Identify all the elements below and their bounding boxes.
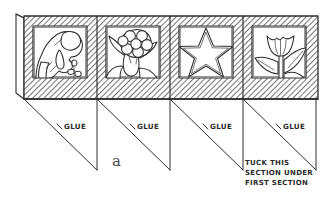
- glue-tab-2: [97, 99, 170, 170]
- glue-pointer-2-icon: [130, 124, 135, 129]
- tuck-instruction-line-2: SECTION UNDER: [245, 169, 313, 177]
- glue-label-1: GLUE: [64, 122, 86, 131]
- diagram-canvas: GLUE GLUE GLUE GLUE TUCK THIS SECTION UN…: [0, 0, 329, 198]
- tuck-instruction-line-1: TUCK THIS: [245, 159, 289, 167]
- papercraft-diagram: GLUE GLUE GLUE GLUE TUCK THIS SECTION UN…: [0, 0, 329, 198]
- glue-pointer-1-icon: [57, 124, 62, 129]
- glue-pointer-3-icon: [203, 124, 208, 129]
- left-edge-flap: [16, 14, 24, 99]
- glue-tab-1: [24, 99, 97, 170]
- glue-label-4: GLUE: [283, 122, 305, 131]
- panel-2: [106, 26, 160, 78]
- figure-label: a: [112, 152, 121, 170]
- tuck-instruction-line-3: FIRST SECTION: [245, 179, 308, 187]
- panel-band: [24, 16, 318, 99]
- glue-label-2: GLUE: [137, 122, 159, 131]
- glue-pointer-4-icon: [276, 124, 281, 129]
- panel-1: [33, 26, 87, 78]
- glue-label-3: GLUE: [210, 122, 232, 131]
- glue-tab-3: [170, 99, 243, 170]
- panel-4: [252, 26, 306, 78]
- panel-3: [179, 26, 233, 78]
